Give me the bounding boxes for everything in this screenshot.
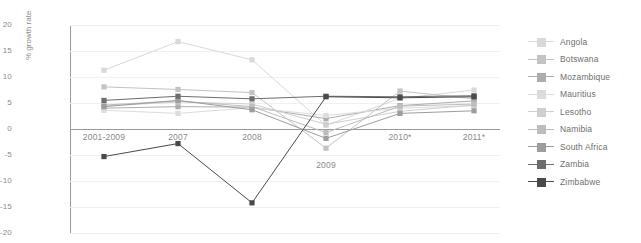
data-point-marker [323,130,328,135]
y-tick-label: 15 [0,47,12,55]
y-tick-label: -15 [0,203,12,211]
legend-label: Botswana [560,54,599,64]
legend-swatch-icon [528,107,554,117]
x-tick-label: 2001-2009 [83,133,125,142]
y-tick-label: 5 [0,99,12,107]
series-zimbabwe [101,94,476,205]
series-botswana [101,84,476,151]
data-point-marker [101,68,106,73]
legend-item-mauritius[interactable]: Mauritius [528,86,641,104]
data-point-marker [101,98,106,103]
legend-item-south-africa[interactable]: South Africa [528,138,641,156]
legend-label: Angola [560,37,587,47]
legend-item-zambia[interactable]: Zambia [528,156,641,174]
legend-swatch-icon [528,159,554,169]
data-point-marker [175,87,180,92]
plot-area: 2001-20092007200820092010*2011* [70,25,500,233]
legend-swatch-icon [528,54,554,64]
x-tick-label: 2011* [463,133,486,142]
y-tick-label: 10 [0,73,12,81]
data-point-marker [249,96,254,101]
data-point-marker [471,101,476,106]
x-tick-label: 2008 [242,133,262,142]
data-point-marker [175,94,180,99]
legend-item-mozambique[interactable]: Mozambique [528,68,641,86]
data-point-marker [323,146,328,151]
data-point-marker [471,94,476,99]
x-tick-label: 2009 [316,161,336,170]
legend-label: Zimbabwe [560,177,600,187]
data-point-marker [249,57,254,62]
data-point-marker [323,94,328,99]
data-point-marker [101,154,106,159]
legend-swatch-icon [528,142,554,152]
data-point-marker [397,111,402,116]
y-axis-title: % growth rate [24,11,33,60]
gridline [70,233,500,234]
data-point-marker [249,200,254,205]
y-tick-label: 0 [0,125,12,133]
series-zambia [101,93,476,103]
legend-label: South Africa [560,142,608,152]
legend-label: Mauritius [560,89,596,99]
legend-item-zimbabwe[interactable]: Zimbabwe [528,173,641,191]
data-point-marker [323,113,328,118]
legend-swatch-icon [528,37,554,47]
chart-canvas: % growth rate 20151050-5-10-15-20 2001-2… [0,0,516,243]
legend-swatch-icon [528,124,554,134]
legend-swatch-icon [528,177,554,187]
y-tick-label: -10 [0,177,12,185]
data-point-marker [175,111,180,116]
data-point-marker [323,136,328,141]
legend-label: Mozambique [560,72,610,82]
data-point-marker [249,90,254,95]
legend-swatch-icon [528,72,554,82]
y-tick-label: 20 [0,21,12,29]
series-lines [70,25,500,233]
legend-label: Zambia [560,159,589,169]
y-tick-label: -20 [0,229,12,237]
legend-label: Lesotho [560,107,591,117]
x-tick-label: 2010* [388,133,411,142]
data-point-marker [175,39,180,44]
data-point-marker [101,84,106,89]
y-tick-label: -5 [0,151,12,159]
legend-swatch-icon [528,89,554,99]
data-point-marker [397,104,402,109]
data-point-marker [249,107,254,112]
x-tick-label: 2007 [168,133,188,142]
legend-item-namibia[interactable]: Namibia [528,121,641,139]
legend-label: Namibia [560,124,592,134]
legend-item-lesotho[interactable]: Lesotho [528,103,641,121]
chart-root: % growth rate 20151050-5-10-15-20 2001-2… [0,0,641,243]
data-point-marker [397,95,402,100]
data-point-marker [101,104,106,109]
legend-item-botswana[interactable]: Botswana [528,51,641,69]
data-point-marker [471,87,476,92]
data-point-marker [397,88,402,93]
legend-item-angola[interactable]: Angola [528,33,641,51]
data-point-marker [471,108,476,113]
data-point-marker [175,104,180,109]
legend: AngolaBotswanaMozambiqueMauritiusLesotho… [528,33,641,191]
data-point-marker [323,122,328,127]
